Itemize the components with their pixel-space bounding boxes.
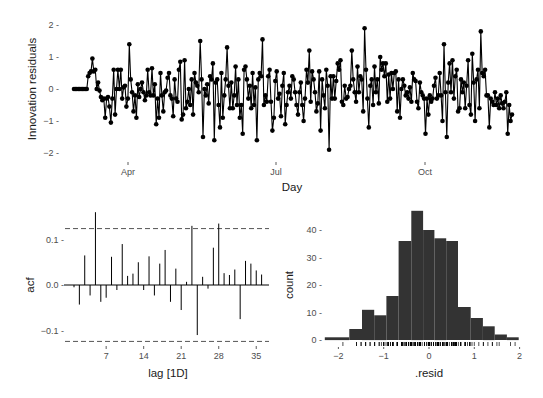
residual-point	[379, 68, 384, 73]
residual-point	[367, 125, 372, 130]
residual-point	[299, 80, 304, 85]
acf-x-tick-label: 7	[104, 351, 109, 361]
residual-point	[245, 77, 250, 82]
residual-point	[460, 90, 465, 95]
residual-point	[409, 100, 414, 105]
residual-point	[181, 112, 186, 117]
residual-point	[433, 76, 438, 81]
residual-point	[508, 119, 513, 124]
residual-point	[201, 135, 206, 140]
residual-point	[442, 42, 447, 47]
residual-point	[93, 68, 98, 73]
residual-point	[219, 71, 224, 76]
histogram-y-tick-label: 40 -	[306, 225, 322, 235]
residual-point	[188, 103, 193, 108]
residual-point	[172, 77, 177, 82]
residual-point	[352, 90, 357, 95]
residual-point	[497, 106, 502, 111]
residual-point	[289, 96, 294, 101]
residual-point	[372, 64, 377, 69]
residual-point	[432, 84, 437, 89]
histogram-bar	[471, 318, 483, 340]
residual-point	[131, 109, 136, 114]
residual-point	[134, 116, 139, 121]
residual-point	[221, 116, 226, 121]
residual-point	[90, 56, 95, 61]
residual-point	[284, 103, 289, 108]
residual-point	[239, 103, 244, 108]
histogram-bar	[495, 335, 507, 341]
residual-point	[371, 103, 376, 108]
acf-y-tick-label: −0.1 -	[41, 326, 64, 336]
residual-point	[423, 132, 428, 137]
residuals-y-tick-label: 1 -	[48, 52, 59, 62]
residual-point	[415, 100, 420, 105]
residual-point	[184, 106, 189, 111]
acf-y-tick-label: 0.0 -	[46, 280, 64, 290]
residual-point	[466, 58, 471, 63]
residual-point	[192, 71, 197, 76]
residual-point	[266, 74, 271, 79]
residual-point	[377, 101, 382, 106]
residual-point	[154, 122, 159, 127]
residuals-x-tick-label: Oct	[418, 167, 433, 177]
residuals-x-tick-label: Apr	[121, 167, 135, 177]
residual-point	[338, 58, 343, 63]
residual-point	[391, 87, 396, 92]
residual-point	[187, 87, 192, 92]
residual-point	[252, 103, 257, 108]
residual-point	[113, 112, 118, 117]
residual-point	[255, 138, 260, 143]
residual-point	[136, 82, 141, 87]
residual-point	[457, 106, 462, 111]
residual-point	[235, 103, 240, 108]
residual-point	[355, 64, 360, 69]
residual-point	[493, 90, 498, 95]
residual-point	[267, 68, 272, 73]
residual-point	[308, 100, 313, 105]
acf-x-tick-label: 14	[139, 351, 149, 361]
residual-point	[357, 90, 362, 95]
histogram-y-tick-label: 30 -	[306, 253, 322, 263]
histogram-bar	[434, 238, 446, 340]
residual-point	[483, 68, 488, 73]
residuals-y-tick-label: −1 -	[43, 116, 59, 126]
residual-point	[189, 77, 194, 82]
residual-point	[304, 68, 309, 73]
residual-point	[294, 103, 299, 108]
residual-point	[287, 84, 292, 89]
residual-point	[85, 87, 90, 92]
residual-point	[395, 109, 400, 114]
residuals-y-tick-label: −2 -	[43, 148, 59, 158]
residual-point	[324, 68, 329, 73]
acf-y-tick-label: 0.1 -	[46, 235, 64, 245]
residual-point	[123, 84, 128, 89]
histogram-x-tick-label: −1	[379, 351, 389, 361]
residual-point	[110, 96, 115, 101]
residual-point	[212, 138, 217, 143]
histogram-rug	[343, 342, 515, 346]
residuals-x-axis-title: Day	[282, 181, 303, 193]
residual-point	[198, 39, 203, 44]
residual-point	[182, 58, 187, 63]
residual-point	[250, 71, 255, 76]
residual-point	[128, 77, 133, 82]
residual-point	[318, 128, 323, 133]
residual-point	[487, 125, 492, 130]
residual-point	[430, 96, 435, 101]
residual-point	[119, 68, 124, 73]
residual-point	[218, 125, 223, 130]
residual-point	[153, 82, 158, 87]
residual-point	[96, 80, 101, 85]
residual-point	[452, 96, 457, 101]
residual-point	[345, 95, 350, 100]
residuals-y-tick-label: 2 -	[48, 20, 59, 30]
residual-point	[150, 66, 155, 71]
residual-point	[293, 90, 298, 95]
residual-point	[439, 93, 444, 98]
residual-point	[479, 29, 484, 34]
residual-point	[470, 52, 475, 57]
residual-point	[411, 71, 416, 76]
residual-point	[440, 119, 445, 124]
residual-point	[106, 95, 111, 100]
